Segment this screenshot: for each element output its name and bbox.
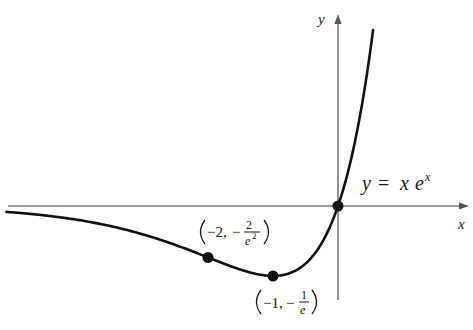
function-graph: x y y = x e x −2, − 2 e 2 −1, − 1 e xyxy=(0,0,473,330)
point-minus-two-label: −2, − 2 e 2 xyxy=(201,218,269,248)
y-axis-arrow-icon xyxy=(335,14,342,24)
svg-text:2: 2 xyxy=(246,218,252,232)
svg-text:−1,: −1, xyxy=(263,295,283,311)
svg-text:x: x xyxy=(424,170,431,184)
function-label: y = x e x xyxy=(360,170,431,195)
svg-text:−: − xyxy=(286,295,294,311)
svg-text:−2,: −2, xyxy=(207,224,227,240)
x-axis-arrow-icon xyxy=(459,203,469,210)
minimum-point xyxy=(268,271,279,282)
minimum-point-label: −1, − 1 e xyxy=(257,288,317,317)
svg-text:1: 1 xyxy=(301,288,307,302)
svg-text:e: e xyxy=(300,303,306,317)
svg-text:x: x xyxy=(399,172,409,194)
svg-text:y: y xyxy=(360,172,371,195)
svg-text:2: 2 xyxy=(252,231,257,241)
curve-x-exp-x xyxy=(7,30,374,276)
svg-text:−: − xyxy=(232,224,240,240)
x-axis-label: x xyxy=(457,216,465,232)
point-minus-two xyxy=(203,252,214,263)
svg-text:e: e xyxy=(415,172,424,194)
svg-text:e: e xyxy=(245,234,251,248)
svg-text:=: = xyxy=(378,172,389,194)
y-axis-label: y xyxy=(316,11,325,27)
origin-point xyxy=(333,201,344,212)
